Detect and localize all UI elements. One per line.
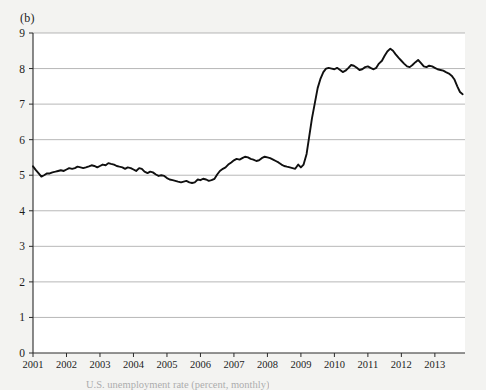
x-tick-label: 2006 [190, 359, 211, 370]
x-tick-label: 2008 [257, 359, 278, 370]
y-tick-label: 7 [19, 98, 25, 110]
x-tick-label: 2001 [23, 359, 44, 370]
x-tick-label: 2009 [290, 359, 311, 370]
x-tick-label: 2005 [156, 359, 177, 370]
y-tick-label: 2 [19, 276, 25, 288]
x-tick-label: 2007 [223, 359, 244, 370]
y-tick-label: 8 [19, 63, 25, 75]
y-tick-label: 5 [19, 169, 25, 181]
x-axis-ticks: 2001200220032004200520062007200820092010… [23, 353, 446, 370]
figure-panel-b: (b) 0123456789 2001200220032004200520062… [0, 0, 486, 390]
x-tick-label: 2011 [358, 359, 379, 370]
y-tick-label: 4 [19, 205, 25, 217]
y-tick-label: 9 [19, 27, 25, 39]
x-tick-label: 2003 [89, 359, 110, 370]
y-tick-label: 3 [19, 240, 25, 252]
y-tick-label: 1 [19, 311, 25, 323]
x-tick-label: 2004 [123, 359, 145, 370]
plot-background [33, 33, 465, 353]
x-tick-label: 2010 [324, 359, 345, 370]
figure-caption-cropped: U.S. unemployment rate (percent, monthly… [86, 379, 269, 390]
line-chart: 0123456789 20012002200320042005200620072… [0, 0, 486, 390]
x-tick-label: 2013 [424, 359, 445, 370]
x-tick-label: 2002 [56, 359, 77, 370]
x-tick-label: 2012 [391, 359, 412, 370]
y-tick-label: 6 [19, 134, 25, 146]
y-axis-ticks: 0123456789 [19, 27, 33, 359]
y-tick-label: 0 [19, 347, 25, 359]
